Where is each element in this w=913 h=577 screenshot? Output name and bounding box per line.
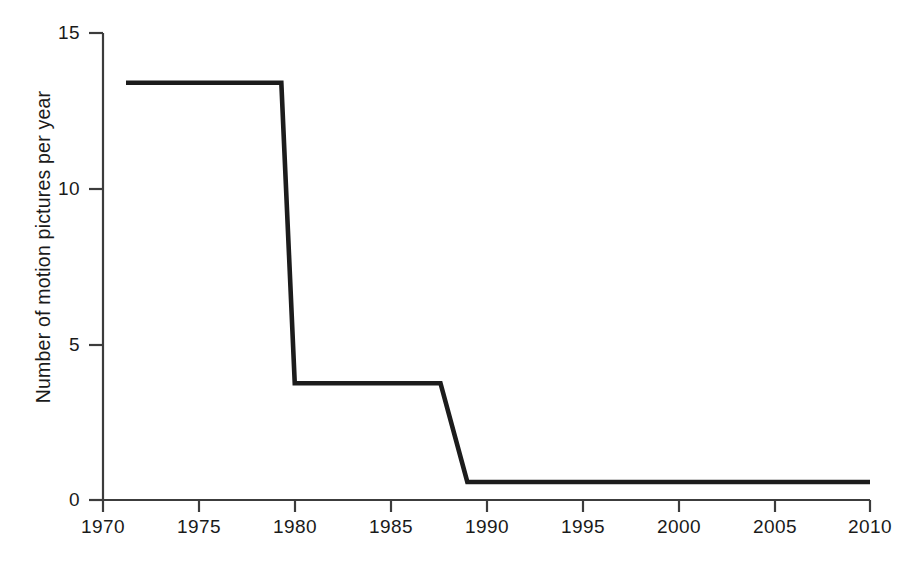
x-tick-label-2000: 2000: [657, 516, 701, 538]
x-tick-label-2010: 2010: [848, 516, 892, 538]
y-axis-ticks: [89, 33, 103, 500]
y-axis-title: Number of motion pictures per year: [26, 0, 60, 497]
x-tick-label-1980: 1980: [273, 516, 317, 538]
x-tick-label-1995: 1995: [561, 516, 605, 538]
x-tick-label-2005: 2005: [753, 516, 797, 538]
x-tick-label-1985: 1985: [369, 516, 413, 538]
data-line: [126, 83, 870, 482]
plot-area: [0, 0, 913, 577]
chart-figure: 15 10 5 0 1970 1975 1980 1985 1990 1995 …: [0, 0, 913, 577]
x-tick-label-1975: 1975: [177, 516, 221, 538]
x-axis-ticks: [103, 500, 870, 512]
x-tick-label-1990: 1990: [465, 516, 509, 538]
x-tick-label-1970: 1970: [81, 516, 125, 538]
